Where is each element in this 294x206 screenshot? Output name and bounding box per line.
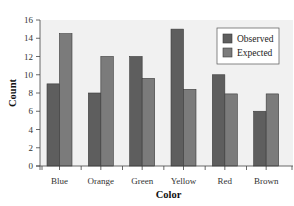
- bar-observed-orange: [88, 93, 101, 166]
- bar-observed-red: [212, 75, 225, 166]
- y-tick-label: 12: [24, 52, 33, 62]
- y-tick-label: 14: [24, 33, 34, 43]
- y-tick-label: 8: [29, 88, 34, 98]
- x-axis: BlueOrangeGreenYellowRedBrown: [36, 166, 293, 186]
- x-tick-label-red: Red: [218, 176, 233, 186]
- x-tick-label-orange: Orange: [88, 176, 115, 186]
- y-tick-label: 2: [29, 143, 34, 153]
- legend-label-expected: Expected: [237, 48, 273, 58]
- y-tick-label: 16: [24, 15, 34, 25]
- y-axis-title: Count: [7, 78, 18, 107]
- legend: ObservedExpected: [217, 28, 279, 64]
- y-axis: 0246810121416: [24, 15, 40, 171]
- y-tick-label: 6: [29, 106, 34, 116]
- bar-expected-yellow: [184, 89, 197, 166]
- bar-chart: 0246810121416 BlueOrangeGreenYellowRedBr…: [0, 0, 294, 206]
- y-tick-label: 4: [29, 125, 34, 135]
- bar-expected-brown: [266, 94, 279, 166]
- y-tick-label: 10: [24, 70, 34, 80]
- x-tick-label-brown: Brown: [254, 176, 279, 186]
- bar-expected-blue: [60, 34, 73, 166]
- bar-observed-yellow: [171, 29, 184, 166]
- bar-expected-orange: [101, 57, 114, 167]
- legend-swatch-observed: [223, 34, 232, 43]
- bar-observed-brown: [254, 111, 267, 166]
- bar-expected-green: [142, 78, 155, 166]
- bar-observed-green: [130, 57, 143, 167]
- x-tick-label-blue: Blue: [51, 176, 68, 186]
- legend-swatch-expected: [223, 48, 232, 57]
- y-tick-label: 0: [29, 161, 34, 171]
- x-tick-label-yellow: Yellow: [171, 176, 197, 186]
- bar-observed-blue: [47, 84, 60, 166]
- legend-label-observed: Observed: [237, 34, 274, 44]
- x-axis-title: Color: [156, 189, 182, 200]
- bar-expected-red: [225, 94, 238, 166]
- x-tick-label-green: Green: [131, 176, 153, 186]
